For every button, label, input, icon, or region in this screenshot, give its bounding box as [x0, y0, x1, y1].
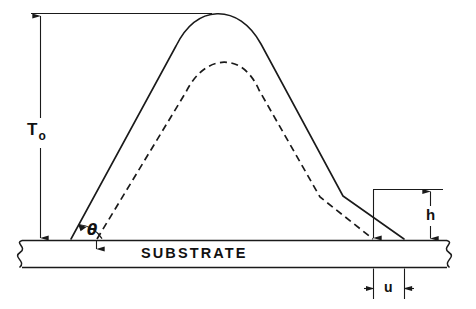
dimension-h: h [373, 190, 443, 239]
substrate-label: SUBSTRATE [141, 245, 247, 261]
u-label: u [384, 279, 393, 295]
line-diagram-canvas: SUBSTRATE T o θ [0, 0, 476, 309]
dimension-u: u [364, 269, 414, 300]
dashed-resist-profile [97, 62, 373, 239]
theta-label: θ [87, 221, 97, 239]
dimension-theta: θ [78, 221, 102, 250]
dimension-T0: T o [27, 16, 46, 238]
T0-label-subscript: o [39, 129, 46, 143]
h-label: h [426, 206, 435, 223]
substrate-slab: SUBSTRATE [18, 241, 452, 268]
T0-label-main: T [27, 120, 38, 139]
figure-root: SUBSTRATE T o θ [0, 0, 476, 309]
solid-resist-profile [71, 14, 404, 239]
